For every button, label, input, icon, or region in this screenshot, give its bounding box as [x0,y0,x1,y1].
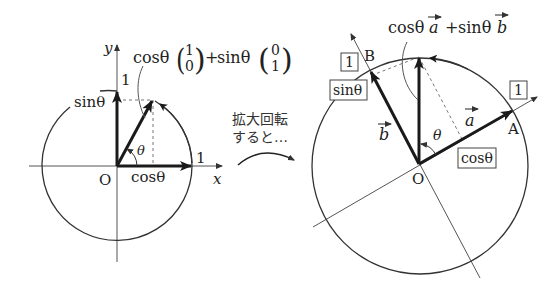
formula-r-a: a [429,18,439,37]
formula-paren-close-2: ) [281,42,293,77]
unit-x-label: 1 [196,149,206,167]
formula-vec2-bottom: 1 [271,58,280,74]
formula-r-cos: cosθ [388,18,424,37]
formula-vec2-top: 0 [271,42,280,58]
unit-y-label: 1 [121,71,131,89]
formula-r-plus: + [445,18,458,37]
transition: 拡大回転 すると… [232,111,294,165]
angle-arc [127,149,137,166]
vec-b-label: b [379,125,389,144]
sin-label: sinθ [74,93,105,111]
formula-sin: sinθ [217,48,250,67]
point-a-label: A [507,120,519,138]
left-diagram: y x 1 1 O cosθ sinθ θ cosθ ( 1 0 ) + sin… [29,39,293,262]
formula-r-sin: sinθ [458,18,491,37]
point-b-label: B [364,47,375,65]
formula-pointer-right [402,42,418,100]
formula-cos: cosθ [133,48,169,67]
box-sin: sinθ [330,80,367,100]
svg-text:1: 1 [345,54,354,70]
rotation-diagram: y x 1 1 O cosθ sinθ θ cosθ ( 1 0 ) + sin… [0,0,550,305]
left-formula: cosθ ( 1 0 ) + sinθ ( 0 1 ) [133,42,293,77]
formula-vec1-top: 1 [185,42,194,58]
angle-label: θ [137,143,145,158]
x-axis-label: x [213,170,222,188]
formula-paren-open-1: ( [176,42,185,76]
formula-r-b: b [497,18,507,37]
formula-pointer [138,66,145,118]
angle-arc-right [421,144,436,155]
svg-text:cosθ: cosθ [461,150,493,166]
svg-text:1: 1 [514,82,523,98]
formula-vec1-bottom: 0 [185,58,194,74]
transition-line2: すると… [232,129,288,145]
vec-a-label: a [465,111,475,130]
formula-paren-open-2: ( [258,42,270,77]
right-diagram: cosθ a + sinθ b O A B a b θ 1 sinθ 1 [312,15,537,278]
box-one-a: 1 [510,81,527,99]
rotation-arc-arrow [160,104,192,163]
box-cos: cosθ [458,148,496,168]
svg-text:sinθ: sinθ [333,82,362,98]
cos-label: cosθ [131,168,165,186]
transition-line1: 拡大回転 [232,111,288,127]
box-one-b: 1 [341,53,358,71]
formula-paren-close-1: ) [194,42,206,77]
origin-label: O [99,171,111,189]
angle-label-right: θ [433,127,442,143]
right-formula: cosθ a + sinθ b [388,15,508,37]
y-axis-label: y [103,39,113,57]
origin-label-right: O [412,170,424,188]
vector-b [371,72,419,164]
transition-arrow [238,153,294,165]
